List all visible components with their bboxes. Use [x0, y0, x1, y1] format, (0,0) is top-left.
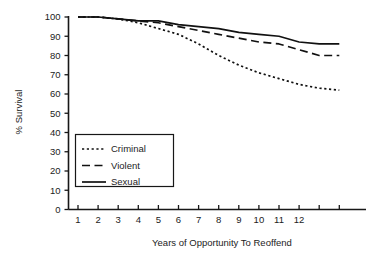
- x-axis-title: Years of Opportunity To Reoffend: [152, 237, 292, 248]
- chart-series-group: [78, 17, 339, 90]
- y-tick-label: 100: [45, 11, 61, 22]
- x-tick-label: 12: [294, 214, 305, 225]
- legend-label-criminal: Criminal: [111, 143, 146, 154]
- x-tick-label: 9: [236, 214, 241, 225]
- x-tick-label: 7: [196, 214, 201, 225]
- y-tick-label: 40: [50, 127, 61, 138]
- y-tick-label: 0: [55, 204, 60, 215]
- series-line-sexual: [78, 17, 339, 44]
- legend-label-violent: Violent: [111, 160, 140, 171]
- x-tick-label: 5: [156, 214, 161, 225]
- survival-chart-figure: % Survival Years of Opportunity To Reoff…: [0, 0, 373, 264]
- y-tick-label: 50: [50, 108, 61, 119]
- y-tick-label: 20: [50, 165, 61, 176]
- y-axis-title: % Survival: [13, 90, 24, 135]
- chart-legend: CriminalViolentSexual: [76, 135, 174, 188]
- x-tick-label: 1: [75, 214, 80, 225]
- y-tick-label: 80: [50, 50, 61, 61]
- x-tick-label: 6: [176, 214, 181, 225]
- x-tick-label: 2: [95, 214, 100, 225]
- x-tick-label: 3: [116, 214, 121, 225]
- x-tick-label: 10: [254, 214, 265, 225]
- survival-line-chart: % Survival Years of Opportunity To Reoff…: [0, 0, 373, 264]
- y-tick-label: 10: [50, 185, 61, 196]
- x-axis-tick-labels: 123456789101112: [75, 214, 304, 225]
- x-tick-label: 11: [274, 214, 284, 225]
- x-tick-label: 4: [136, 214, 141, 225]
- y-tick-label: 70: [50, 69, 61, 80]
- y-tick-label: 60: [50, 88, 61, 99]
- y-tick-label: 90: [50, 31, 61, 42]
- x-tick-label: 8: [216, 214, 221, 225]
- y-axis-tick-labels: 0102030405060708090100: [45, 11, 61, 215]
- y-tick-label: 30: [50, 146, 61, 157]
- legend-label-sexual: Sexual: [111, 176, 140, 187]
